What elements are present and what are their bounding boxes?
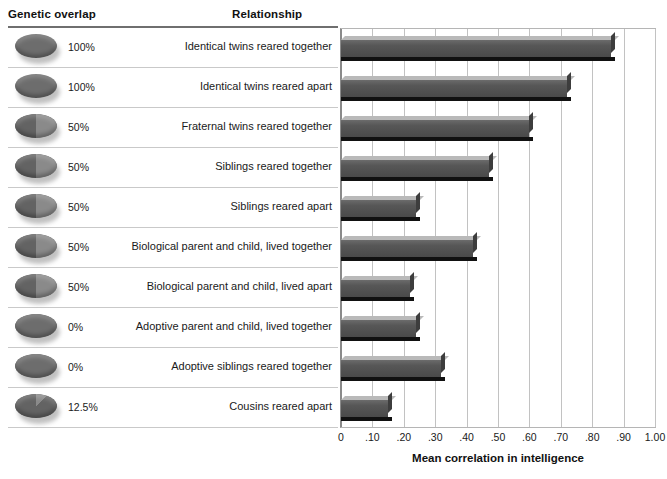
plot-row — [341, 389, 655, 429]
genetic-overlap-pie-icon — [15, 394, 61, 422]
relationship-label: Fraternal twins reared together — [182, 120, 332, 132]
x-tick-label: .40 — [459, 431, 474, 443]
bar-end-face — [416, 192, 420, 213]
x-tick-label: 1.00 — [645, 431, 665, 443]
bar-shadow — [341, 297, 414, 301]
x-tick-label: .60 — [522, 431, 537, 443]
column-header-genetic-overlap: Genetic overlap — [8, 8, 96, 20]
bar-shadow — [341, 337, 420, 341]
relationship-label: Siblings reared together — [215, 160, 332, 172]
x-tick-label: .30 — [428, 431, 443, 443]
genetic-overlap-chart: Genetic overlap Relationship 100%Identic… — [0, 0, 667, 479]
bar — [341, 360, 441, 377]
bar — [341, 240, 473, 257]
bar-shadow — [341, 177, 493, 181]
genetic-overlap-value: 50% — [68, 161, 89, 173]
plot-row — [341, 269, 655, 309]
bar — [341, 320, 416, 337]
bar — [341, 80, 567, 97]
bar-shadow — [341, 417, 392, 421]
pie-disc — [15, 154, 57, 178]
genetic-overlap-pie-icon — [15, 194, 61, 222]
column-header-relationship: Relationship — [232, 8, 302, 20]
pie-disc — [15, 194, 57, 218]
pie-disc — [15, 234, 57, 258]
bar-top-face — [341, 356, 449, 360]
table-row: 50%Fraternal twins reared together — [8, 108, 338, 148]
bar — [341, 200, 416, 217]
plot-row — [341, 109, 655, 149]
bar-top-face — [341, 116, 537, 120]
genetic-overlap-value: 50% — [68, 121, 89, 133]
plot-row — [341, 69, 655, 109]
relationship-table: 100%Identical twins reared together100%I… — [8, 28, 338, 428]
relationship-label: Siblings reared apart — [230, 200, 332, 212]
genetic-overlap-pie-icon — [15, 34, 61, 62]
genetic-overlap-pie-icon — [15, 154, 61, 182]
x-tick-label: .50 — [491, 431, 506, 443]
bar — [341, 40, 611, 57]
table-row: 50%Biological parent and child, lived ap… — [8, 268, 338, 308]
pie-disc — [15, 314, 57, 338]
bar-end-face — [611, 32, 615, 53]
pie-disc — [15, 354, 57, 378]
bar — [341, 120, 529, 137]
bar-shadow — [341, 57, 615, 61]
relationship-label: Biological parent and child, lived toget… — [131, 240, 332, 252]
table-row: 50%Siblings reared together — [8, 148, 338, 188]
genetic-overlap-pie-icon — [15, 234, 61, 262]
table-row: 0%Adoptive parent and child, lived toget… — [8, 308, 338, 348]
relationship-label: Biological parent and child, lived apart — [147, 280, 332, 292]
bar-end-face — [410, 272, 414, 293]
table-row: 100%Identical twins reared apart — [8, 68, 338, 108]
pie-edge — [15, 314, 57, 338]
pie-edge — [15, 34, 57, 58]
pie-disc — [15, 274, 57, 298]
pie-edge — [15, 394, 57, 418]
bar-top-face — [341, 156, 497, 160]
genetic-overlap-value: 50% — [68, 281, 89, 293]
x-tick-label: 0 — [338, 431, 344, 443]
relationship-label: Adoptive siblings reared together — [171, 360, 332, 372]
relationship-label: Identical twins reared together — [185, 40, 332, 52]
bar-end-face — [473, 232, 477, 253]
pie-edge — [15, 274, 57, 298]
genetic-overlap-value: 100% — [68, 41, 95, 53]
table-row: 50%Biological parent and child, lived to… — [8, 228, 338, 268]
x-tick-label: .20 — [396, 431, 411, 443]
bar-end-face — [489, 152, 493, 173]
pie-edge — [15, 234, 57, 258]
x-tick-label: .10 — [365, 431, 380, 443]
x-tick-label: .70 — [553, 431, 568, 443]
bar-end-face — [416, 312, 420, 333]
plot-row — [341, 189, 655, 229]
bar-end-face — [441, 352, 445, 373]
pie-disc — [15, 74, 57, 98]
bar — [341, 280, 410, 297]
pie-edge — [15, 74, 57, 98]
genetic-overlap-pie-icon — [15, 274, 61, 302]
genetic-overlap-pie-icon — [15, 354, 61, 382]
bar-shadow — [341, 217, 420, 221]
relationship-label: Adoptive parent and child, lived togethe… — [136, 320, 332, 332]
bar-shadow — [341, 377, 445, 381]
genetic-overlap-value: 50% — [68, 241, 89, 253]
gridline — [655, 29, 656, 427]
table-row: 0%Adoptive siblings reared together — [8, 348, 338, 388]
pie-disc — [15, 34, 57, 58]
x-tick-label: .80 — [585, 431, 600, 443]
x-axis-title: Mean correlation in intelligence — [340, 452, 656, 464]
pie-disc — [15, 394, 57, 418]
pie-edge — [15, 154, 57, 178]
table-row: 50%Siblings reared apart — [8, 188, 338, 228]
bar-top-face — [341, 36, 619, 40]
relationship-label: Cousins reared apart — [229, 400, 332, 412]
bar-end-face — [388, 392, 392, 413]
genetic-overlap-value: 0% — [68, 361, 83, 373]
bar-plot-area — [340, 28, 656, 428]
plot-row — [341, 29, 655, 69]
plot-row — [341, 149, 655, 189]
pie-edge — [15, 194, 57, 218]
x-axis-ticks: 0.10.20.30.40.50.60.70.80.901.00 — [340, 429, 656, 449]
bar-top-face — [341, 236, 481, 240]
